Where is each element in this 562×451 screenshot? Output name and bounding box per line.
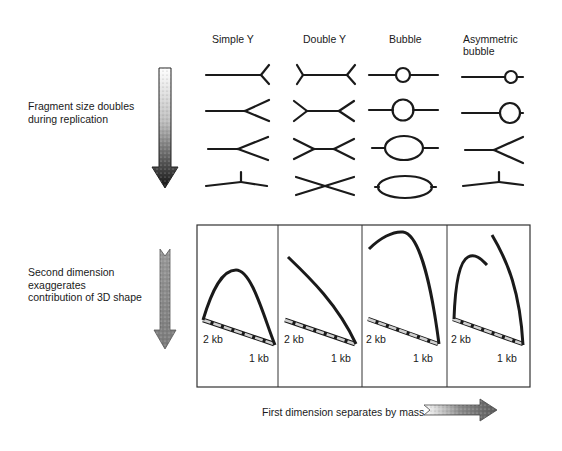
panel-2-label-1kb: 1 kb	[331, 352, 351, 364]
asymmetric-bubble-row-4	[463, 172, 523, 186]
double-y-row-3	[294, 139, 354, 159]
bubble-row-2	[369, 100, 438, 121]
shape-grid	[206, 65, 523, 198]
asymmetric-bubble-row-1	[462, 71, 523, 83]
panel-3-label-1kb: 1 kb	[413, 352, 433, 364]
panel-4-label-1kb: 1 kb	[497, 352, 517, 364]
simple-y-row-3	[208, 137, 268, 160]
double-y-row-2	[294, 101, 354, 121]
panel-1-label-1kb: 1 kb	[249, 352, 269, 364]
simple-y-row-2	[206, 100, 269, 121]
panel-double-y	[285, 257, 356, 344]
bubble-row-4	[375, 176, 436, 198]
panel-2-label-2kb: 2 kb	[284, 333, 304, 345]
double-y-row-4	[296, 177, 354, 195]
asymmetric-bubble-row-3	[465, 137, 523, 163]
bubble-row-3	[372, 136, 438, 160]
bubble-row-1	[369, 68, 438, 82]
down-arrow-textured-icon	[154, 249, 176, 349]
right-arrow-textured-icon	[424, 399, 497, 421]
diagram-canvas	[0, 0, 562, 451]
asymmetric-bubble-row-2	[462, 103, 523, 123]
panel-bubble	[368, 232, 439, 344]
panel-4-label-2kb: 2 kb	[451, 333, 471, 345]
panel-1-label-2kb: 2 kb	[203, 333, 223, 345]
double-y-row-1	[297, 65, 355, 84]
panel-3-label-2kb: 2 kb	[366, 333, 386, 345]
down-arrow-gradient-icon	[152, 68, 178, 188]
simple-y-row-4	[206, 172, 267, 186]
simple-y-row-1	[206, 65, 269, 84]
gel-frame	[197, 225, 530, 387]
panel-asymmetric-bubble	[453, 235, 523, 345]
